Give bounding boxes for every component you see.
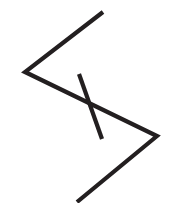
logo-mark-svg: [0, 0, 170, 203]
logo-mark-canvas: [0, 0, 170, 203]
